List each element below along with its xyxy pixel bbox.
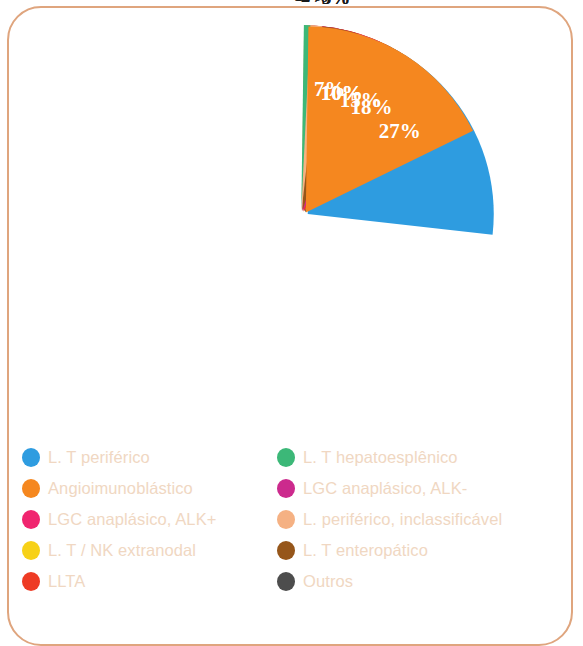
legend-item[interactable]: L. T hepatoesplênico xyxy=(277,442,567,473)
legend-item-label: L. T hepatoesplênico xyxy=(303,448,458,467)
legend-item-label: LGC anaplásico, ALK+ xyxy=(48,510,216,529)
pie-slice-percent-label: 18% xyxy=(351,95,393,119)
pie-chart-plot-area: 15%10%10%7%5%5%2%1%27%18% xyxy=(0,0,583,440)
legend-item-label: LLTA xyxy=(48,572,85,591)
pie-slice-percent-label: 27% xyxy=(379,119,421,143)
legend-color-swatch-icon xyxy=(22,572,40,591)
legend-item-label: LGC anaplásico, ALK- xyxy=(303,479,467,498)
legend-item[interactable]: L. T periférico xyxy=(22,442,268,473)
legend-item-label: Angioimunoblástico xyxy=(48,479,193,498)
legend-item[interactable]: LGC anaplásico, ALK+ xyxy=(22,504,268,535)
legend-item[interactable]: LGC anaplásico, ALK- xyxy=(277,473,567,504)
legend-color-swatch-icon xyxy=(277,510,295,529)
legend-color-swatch-icon xyxy=(277,541,295,560)
legend-item-label: L. periférico, inclassificável xyxy=(303,510,502,529)
pie-slice-percent-label: 7% xyxy=(314,77,346,101)
legend-color-swatch-icon xyxy=(22,479,40,498)
legend-item[interactable]: Angioimunoblástico xyxy=(22,473,268,504)
legend-item-label: Outros xyxy=(303,572,353,591)
legend-color-swatch-icon xyxy=(277,572,295,591)
pie-slice-percent-label: 1% xyxy=(294,0,323,5)
legend-item-label: L. T enteropático xyxy=(303,541,428,560)
legend-color-swatch-icon xyxy=(22,510,40,529)
legend-item[interactable]: L. T / NK extranodal xyxy=(22,535,268,566)
legend-item[interactable]: Outros xyxy=(277,566,567,597)
legend-color-swatch-icon xyxy=(277,448,295,467)
legend-item[interactable]: LLTA xyxy=(22,566,268,597)
legend-item[interactable]: L. T enteropático xyxy=(277,535,567,566)
legend-item[interactable]: L. periférico, inclassificável xyxy=(277,504,567,535)
pie-svg: 15%10%10%7%5%5%2%1%27%18% xyxy=(0,0,583,440)
legend-color-swatch-icon xyxy=(22,541,40,560)
legend-item-label: L. T / NK extranodal xyxy=(48,541,196,560)
legend-color-swatch-icon xyxy=(22,448,40,467)
legend-item-label: L. T periférico xyxy=(48,448,150,467)
chart-legend: L. T periféricoL. T hepatoesplênicoAngio… xyxy=(22,442,567,597)
legend-color-swatch-icon xyxy=(277,479,295,498)
